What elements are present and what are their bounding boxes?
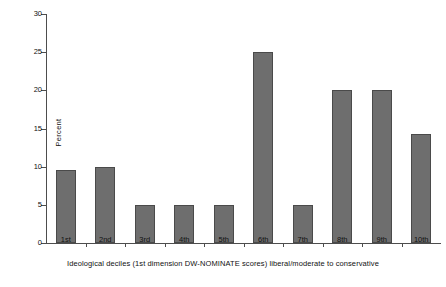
x-tick-mark bbox=[204, 243, 205, 247]
bar-chart-figure: Percent 051015202530 1st2nd3rd4th5th6th7… bbox=[0, 0, 446, 287]
x-category-label: 3rd bbox=[139, 236, 150, 244]
x-category-label: 7th bbox=[298, 236, 308, 244]
bar bbox=[411, 134, 431, 243]
y-tick-label: 15 bbox=[34, 125, 42, 133]
x-category-label: 4th bbox=[179, 236, 189, 244]
x-tick-mark bbox=[244, 243, 245, 247]
x-category-label: 6th bbox=[258, 236, 268, 244]
y-axis-line bbox=[46, 14, 47, 243]
y-tick-label: 0 bbox=[38, 239, 42, 247]
y-tick-label: 20 bbox=[34, 87, 42, 95]
y-tick-label: 5 bbox=[38, 201, 42, 209]
x-tick-mark bbox=[323, 243, 324, 247]
bar bbox=[253, 52, 273, 243]
x-tick-mark bbox=[402, 243, 403, 247]
x-category-label: 5th bbox=[219, 236, 229, 244]
x-category-label: 9th bbox=[377, 236, 387, 244]
x-tick-mark bbox=[283, 243, 284, 247]
x-tick-mark bbox=[86, 243, 87, 247]
x-axis-title: Ideological deciles (1st dimension DW-NO… bbox=[0, 259, 446, 268]
x-category-label: 10th bbox=[414, 236, 429, 244]
bar bbox=[56, 170, 76, 243]
x-tick-mark bbox=[362, 243, 363, 247]
y-tick-label: 30 bbox=[34, 10, 42, 18]
plot-area: 051015202530 bbox=[46, 14, 441, 243]
x-category-label: 8th bbox=[337, 236, 347, 244]
y-tick-label: 25 bbox=[34, 48, 42, 56]
x-category-label: 1st bbox=[61, 236, 71, 244]
bar bbox=[372, 90, 392, 243]
bar bbox=[95, 167, 115, 243]
y-tick-label: 10 bbox=[34, 163, 42, 171]
x-tick-mark bbox=[125, 243, 126, 247]
bar bbox=[332, 90, 352, 243]
x-tick-mark bbox=[165, 243, 166, 247]
x-category-label: 2nd bbox=[99, 236, 112, 244]
